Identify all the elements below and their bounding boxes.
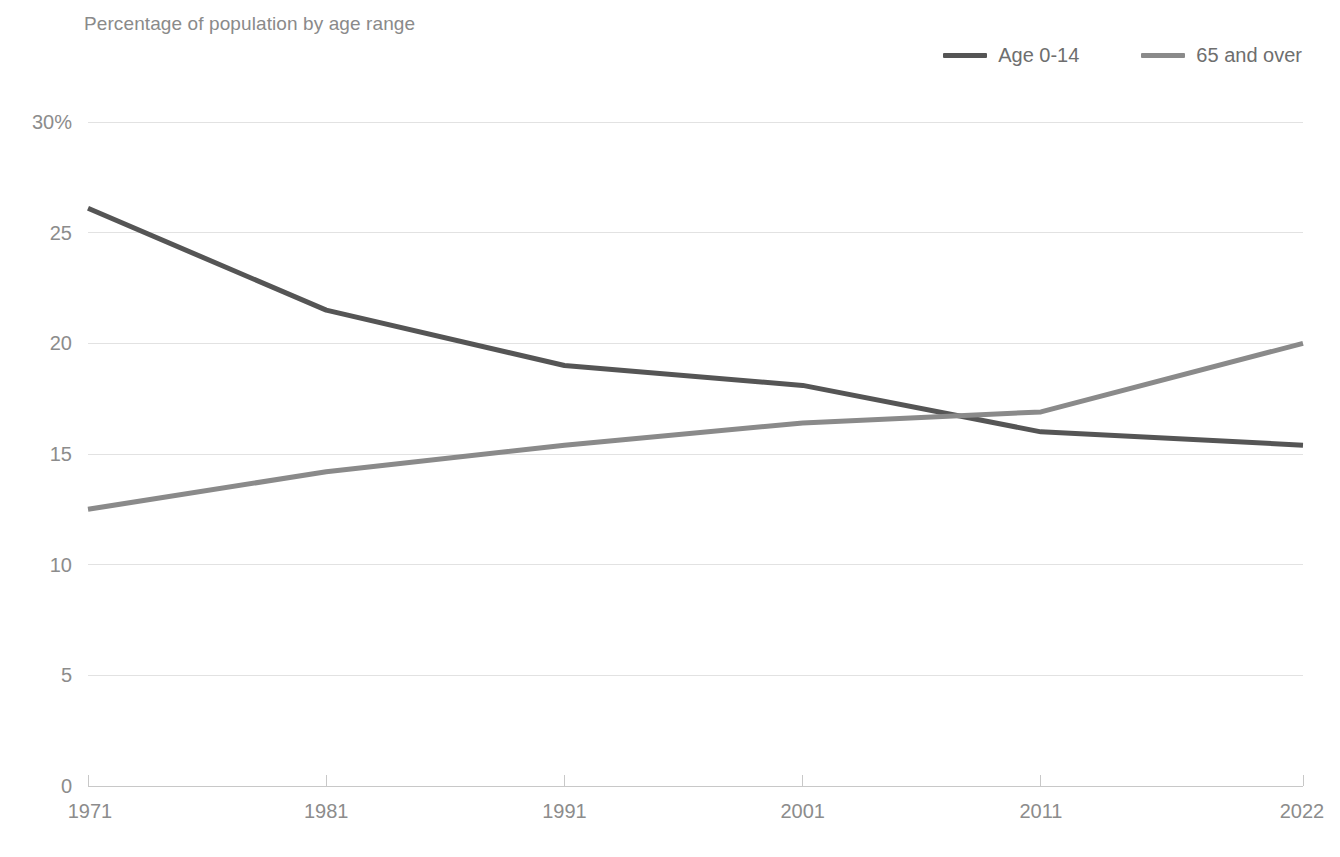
- x-tick-label: 2022: [1280, 800, 1325, 823]
- x-tick-label: 1991: [542, 800, 587, 823]
- x-tick-label: 2001: [780, 800, 825, 823]
- x-tick-label: 1971: [68, 800, 113, 823]
- x-tick-label: 1981: [304, 800, 349, 823]
- x-tick-label: 2011: [1019, 800, 1062, 823]
- x-axis-tick-labels: 197119811991200120112022: [0, 0, 1340, 857]
- line-chart: Percentage of population by age range Ag…: [0, 0, 1340, 857]
